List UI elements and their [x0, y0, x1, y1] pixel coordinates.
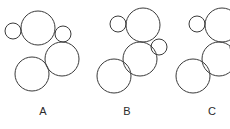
- circle-b-medium-middle: [123, 42, 157, 76]
- circle-a-medium-lower-left: [15, 57, 49, 91]
- circle-a-small-upper-left: [5, 23, 21, 39]
- circle-c-medium-middle: [202, 42, 230, 76]
- circle-group-b: [97, 8, 167, 93]
- circle-group-c: [176, 8, 230, 93]
- circle-c-large-upper: [205, 8, 230, 42]
- group-label-a: A: [33, 106, 53, 117]
- circle-groups-figure: A B C: [0, 0, 230, 129]
- circle-b-small-right: [151, 39, 167, 55]
- circle-c-small-upper-left: [189, 16, 205, 32]
- circle-a-medium-right: [45, 42, 79, 76]
- circle-group-a: [5, 11, 79, 91]
- circle-b-large-upper: [126, 8, 160, 42]
- circle-b-medium-lower-left: [97, 59, 131, 93]
- circle-c-medium-lower-left: [176, 59, 210, 93]
- group-label-c: C: [202, 106, 222, 117]
- group-label-b: B: [117, 106, 137, 117]
- circle-a-small-right: [55, 26, 71, 42]
- circle-b-small-upper-left: [110, 16, 126, 32]
- circle-a-large-upper: [21, 11, 55, 45]
